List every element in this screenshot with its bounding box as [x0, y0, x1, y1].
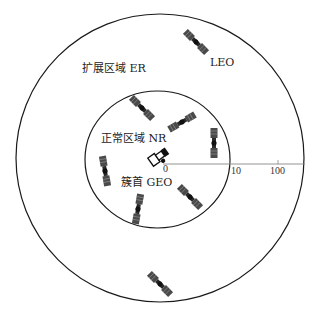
leo-label: LEO — [210, 57, 234, 68]
satellite-icon — [129, 95, 155, 121]
satellite-icon — [183, 29, 209, 55]
satellite-icon — [99, 156, 111, 187]
cluster-head-label: 簇首 GEO — [121, 177, 172, 188]
axis-tick-10: 10 — [231, 166, 241, 176]
satellite-icon — [177, 184, 203, 210]
normal-region-label: 正常区域 NR — [101, 133, 166, 144]
satellite-icon — [211, 128, 218, 158]
distance-axis — [163, 160, 305, 164]
satellite-icon — [147, 271, 173, 297]
satellite-icon — [132, 194, 144, 225]
axis-tick-100: 100 — [270, 166, 285, 176]
satellite-icon — [167, 111, 196, 132]
extended-region-label: 扩展区域 ER — [82, 63, 146, 74]
orbit-diagram — [0, 0, 316, 312]
axis-tick-0: 0 — [163, 164, 168, 174]
geo-satellite-icon — [148, 147, 172, 169]
